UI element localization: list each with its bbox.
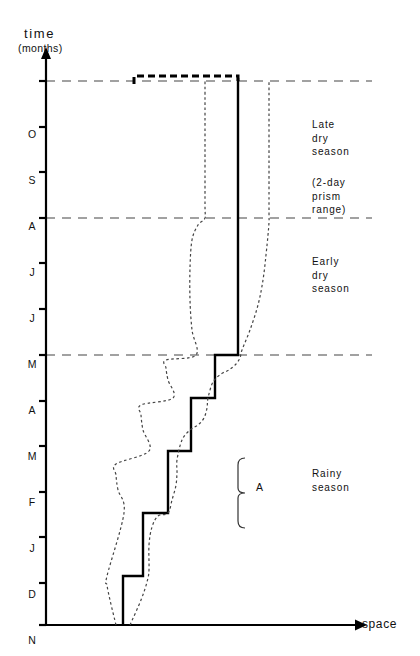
month-label-5: M	[24, 359, 40, 369]
month-label-6: A	[24, 405, 40, 415]
series-2-dotted-envelope	[106, 80, 206, 625]
month-label-8: F	[24, 497, 40, 507]
season-label-rainy: Rainy season	[312, 467, 350, 494]
series-0-solid-staircase	[123, 78, 238, 625]
month-label-9: J	[24, 543, 40, 553]
annotation-brace-a	[238, 458, 245, 528]
season-label-late-dry: Late dry season	[312, 118, 350, 159]
month-label-0: O	[24, 129, 40, 139]
season-label-early-dry: Early dry season	[312, 255, 350, 296]
y-axis-title: time	[24, 26, 55, 41]
month-label-2: A	[24, 221, 40, 231]
month-label-3: J	[24, 267, 40, 277]
month-label-10: D	[24, 589, 40, 599]
x-axis-title: space	[362, 617, 397, 631]
series-3-dotted-envelope	[130, 80, 269, 625]
month-label-1: S	[24, 175, 40, 185]
brace-label-a: A	[256, 481, 264, 493]
month-label-4: J	[24, 313, 40, 323]
series-1-heavy-dashed-cap	[134, 76, 238, 84]
y-axis-subtitle: (months)	[18, 42, 63, 54]
season-note-prism-range: (2-day prism range)	[312, 176, 346, 217]
month-label-7: M	[24, 451, 40, 461]
month-label-11: N	[24, 635, 40, 645]
diagram-canvas	[0, 0, 420, 656]
